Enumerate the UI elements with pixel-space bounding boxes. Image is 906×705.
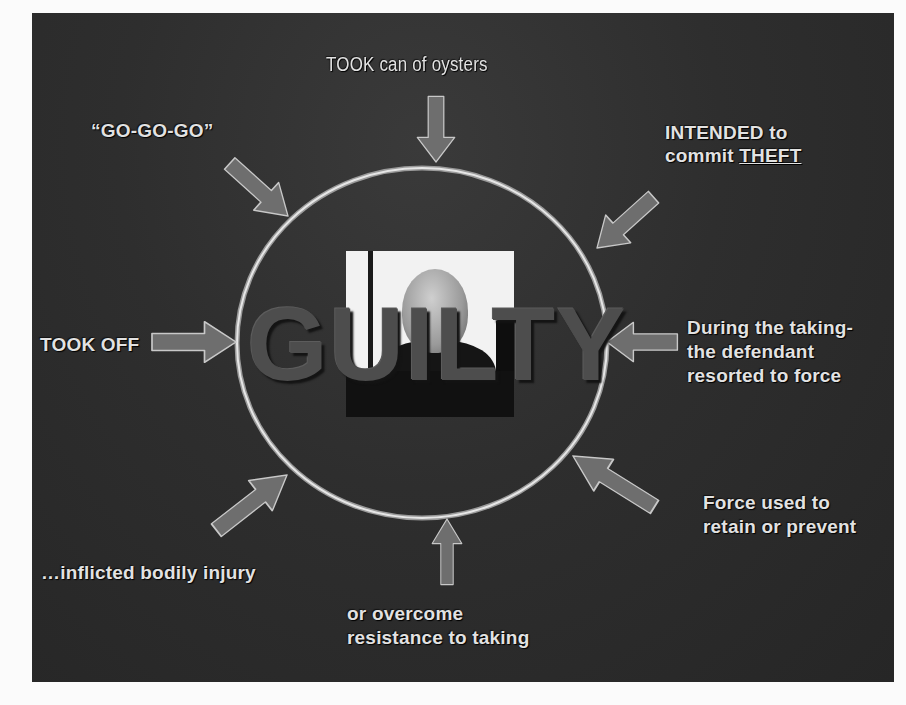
- arrow-bottom-left-icon: [205, 460, 299, 545]
- label-line: or overcome: [347, 602, 529, 626]
- label-took-off: TOOK OFF: [40, 333, 139, 356]
- label-line: commit THEFT: [665, 144, 801, 167]
- arrow-top-left-icon: [217, 150, 300, 230]
- label-line: retain or prevent: [703, 515, 856, 539]
- guilty-heading: GUILTY: [247, 289, 607, 399]
- label-line: Force used to: [703, 491, 856, 515]
- arrow-left-icon: [152, 322, 236, 363]
- arrow-top-right-icon: [584, 183, 666, 262]
- label-or-overcome-resistance: or overcome resistance to taking: [347, 602, 529, 650]
- label-line: During the taking-: [687, 316, 853, 340]
- label-intended-to-commit-theft: INTENDED to commit THEFT: [665, 121, 801, 167]
- label-during-the-taking: During the taking- the defendant resorte…: [687, 316, 853, 388]
- arrow-bottom-icon: [432, 519, 462, 585]
- label-line: resorted to force: [687, 364, 853, 388]
- label-fragment: commit: [665, 145, 739, 166]
- arrow-bottom-right-icon: [563, 440, 664, 523]
- label-inflicted-bodily-injury: …inflicted bodily injury: [41, 561, 256, 584]
- label-line: INTENDED to: [665, 121, 801, 144]
- label-go-go-go: “GO-GO-GO”: [91, 119, 213, 142]
- label-line: resistance to taking: [347, 626, 529, 650]
- theft-underlined: THEFT: [739, 145, 801, 166]
- label-force-used-to-retain: Force used to retain or prevent: [703, 491, 856, 539]
- label-line: the defendant: [687, 340, 853, 364]
- arrow-top-icon: [417, 96, 454, 162]
- label-took-can-of-oysters: TOOK can of oysters: [326, 53, 488, 76]
- slide: GUILTY TOOK can of oysters “GO-GO-GO” IN…: [32, 13, 894, 682]
